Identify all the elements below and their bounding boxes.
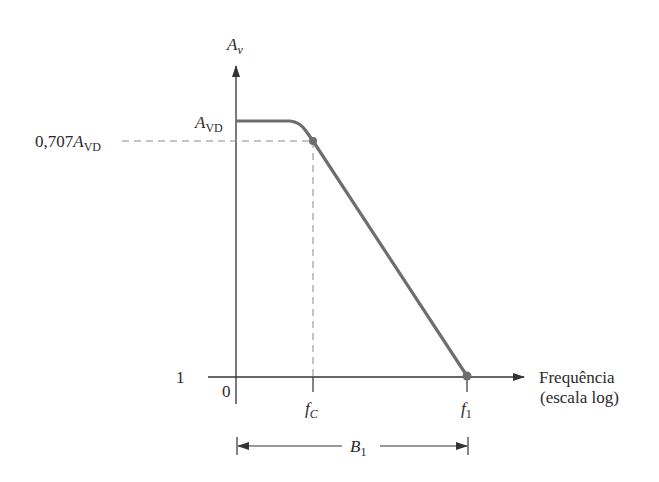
point-fc: [309, 137, 317, 145]
y-axis-label: Av: [226, 35, 243, 57]
response-curve: [236, 121, 467, 376]
avd-label: AVD: [194, 113, 223, 135]
f1-label: f1: [461, 399, 472, 421]
x-axis-label-line2: (escala log): [540, 388, 619, 407]
avd-0707-label: 0,707AVD: [35, 132, 101, 154]
point-f1: [463, 372, 472, 381]
origin-zero: 0: [222, 382, 231, 401]
y-tick-one: 1: [176, 368, 185, 387]
bandwidth-label: B1: [350, 437, 366, 459]
x-axis-label-line1: Frequência: [539, 368, 615, 387]
fc-label: fC: [305, 399, 319, 421]
frequency-response-diagram: Av AVD 0,707AVD 1 0 fC f1 Frequência (es…: [0, 0, 659, 482]
